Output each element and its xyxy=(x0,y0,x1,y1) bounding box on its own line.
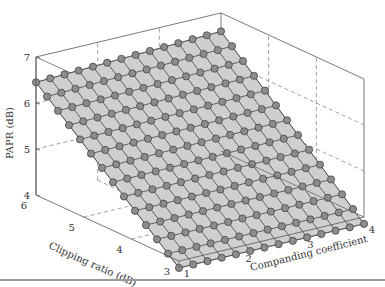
data-point-marker xyxy=(335,209,342,216)
data-point-marker xyxy=(129,70,136,77)
data-point-marker xyxy=(149,186,156,193)
data-point-marker xyxy=(226,131,233,138)
data-point-marker xyxy=(270,190,277,197)
data-point-marker xyxy=(100,77,107,84)
data-point-marker xyxy=(228,200,235,207)
data-point-marker xyxy=(204,258,211,265)
data-point-marker xyxy=(307,216,314,223)
data-point-marker xyxy=(104,59,111,66)
data-point-marker xyxy=(69,103,76,110)
tick-label: 4 xyxy=(116,244,122,255)
data-point-marker xyxy=(281,205,288,212)
data-point-marker xyxy=(165,95,172,102)
data-point-marker xyxy=(258,106,265,113)
data-point-marker xyxy=(187,124,194,131)
data-point-marker xyxy=(305,146,312,153)
data-point-marker xyxy=(177,179,184,186)
data-point-marker xyxy=(160,43,167,50)
data-point-marker xyxy=(108,110,115,117)
data-point-marker xyxy=(47,75,54,82)
data-point-marker xyxy=(188,193,195,200)
data-point-marker xyxy=(196,225,203,232)
data-point-marker xyxy=(252,142,259,149)
data-point-marker xyxy=(275,241,282,248)
data-point-marker xyxy=(219,98,226,105)
data-point-marker xyxy=(234,164,241,171)
data-point-marker xyxy=(272,102,279,109)
data-point-marker xyxy=(135,189,142,196)
data-point-marker xyxy=(190,106,197,113)
data-point-marker xyxy=(221,236,228,243)
data-point-marker xyxy=(218,254,225,261)
data-point-marker xyxy=(198,139,205,146)
data-point-marker xyxy=(168,77,175,84)
data-point-marker xyxy=(250,72,257,79)
tick-label: 5 xyxy=(24,144,30,155)
tick-label: 1 xyxy=(184,268,190,279)
data-point-marker xyxy=(94,114,101,121)
tick-label: 5 xyxy=(68,222,74,233)
data-point-marker xyxy=(346,224,353,231)
data-point-marker xyxy=(126,88,133,95)
data-point-marker xyxy=(176,110,183,117)
data-point-marker xyxy=(137,103,144,110)
data-point-marker xyxy=(316,161,323,168)
data-point-marker xyxy=(211,65,218,72)
data-point-marker xyxy=(146,204,153,211)
data-point-marker xyxy=(233,95,240,102)
data-point-marker xyxy=(118,55,125,62)
data-point-marker xyxy=(119,125,126,132)
data-point-marker xyxy=(253,211,260,218)
data-point-marker xyxy=(154,80,161,87)
tick-label: 6 xyxy=(21,200,27,211)
data-point-marker xyxy=(212,135,219,142)
data-point-marker xyxy=(231,182,238,189)
papr-3d-surface-chart: 456734561234 PAPR (dB) Clipping ratio (d… xyxy=(0,0,385,287)
data-point-marker xyxy=(157,218,164,225)
data-point-marker xyxy=(105,128,112,135)
data-point-marker xyxy=(288,168,295,175)
data-point-marker xyxy=(152,168,159,175)
data-point-marker xyxy=(210,222,217,229)
data-point-marker xyxy=(179,247,186,254)
data-point-marker xyxy=(296,201,303,208)
data-point-marker xyxy=(278,223,285,230)
data-point-marker xyxy=(215,117,222,124)
data-point-marker xyxy=(138,171,145,178)
data-point-marker xyxy=(223,150,230,157)
data-point-marker xyxy=(203,189,210,196)
data-point-marker xyxy=(133,121,140,128)
data-point-marker xyxy=(225,61,232,68)
data-point-marker xyxy=(153,236,160,243)
data-point-marker xyxy=(54,107,61,114)
data-point-marker xyxy=(83,100,90,107)
data-point-marker xyxy=(182,73,189,80)
data-point-marker xyxy=(206,171,213,178)
data-point-marker xyxy=(132,51,139,58)
data-point-marker xyxy=(225,218,232,225)
data-point-marker xyxy=(255,124,262,131)
data-point-marker xyxy=(184,142,191,149)
data-point-marker xyxy=(166,164,173,171)
data-point-marker xyxy=(115,74,122,81)
data-point-marker xyxy=(185,211,192,218)
data-point-marker xyxy=(259,175,266,182)
data-point-marker xyxy=(160,200,167,207)
data-point-marker xyxy=(163,182,170,189)
data-point-marker xyxy=(91,132,98,139)
data-point-marker xyxy=(214,46,221,53)
data-point-marker xyxy=(72,85,79,92)
data-point-marker xyxy=(199,207,206,214)
data-point-marker xyxy=(267,208,274,215)
data-point-marker xyxy=(102,146,109,153)
data-point-marker xyxy=(113,161,120,168)
data-point-marker xyxy=(264,226,271,233)
data-point-marker xyxy=(217,28,224,35)
data-point-marker xyxy=(250,229,257,236)
data-point-marker xyxy=(318,230,325,237)
data-point-marker xyxy=(239,57,246,64)
data-point-marker xyxy=(142,221,149,228)
data-point-marker xyxy=(214,204,221,211)
data-point-marker xyxy=(127,157,134,164)
data-point-marker xyxy=(140,84,147,91)
